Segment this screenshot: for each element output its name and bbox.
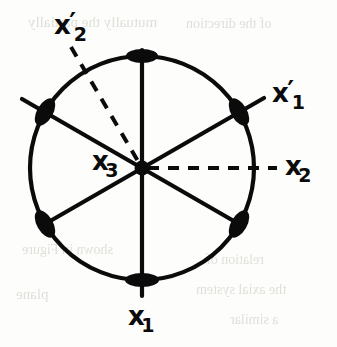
- label-x1: x1: [128, 303, 157, 329]
- label-x2-prime: x′2: [54, 12, 89, 38]
- figure-root: mutually the partiallyof the directionsh…: [0, 0, 337, 347]
- center-hub: [135, 161, 150, 176]
- vertex-bottom-marker: [125, 273, 159, 287]
- label-x1-prime-sub: 1: [292, 91, 305, 113]
- diameter-upper-right: [45, 98, 264, 224]
- label-x2-prime-sub: 2: [74, 23, 87, 45]
- vertex-top-marker: [126, 49, 158, 63]
- label-x2-sub: 2: [298, 164, 311, 186]
- label-x2-prime-base: x: [54, 10, 70, 40]
- diameter-upper-left: [22, 99, 239, 224]
- label-x1-prime: x′1: [272, 80, 307, 106]
- label-x3-sub: 3: [105, 159, 118, 181]
- label-x3: x3: [92, 148, 121, 174]
- label-x1-sub: 1: [141, 314, 154, 336]
- label-x2: x2: [285, 153, 314, 179]
- label-x1-prime-base: x: [272, 78, 288, 108]
